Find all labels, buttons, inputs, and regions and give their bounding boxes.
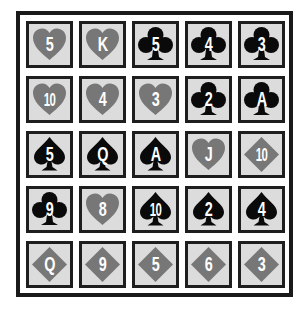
- card-spades-a[interactable]: A: [132, 131, 179, 178]
- card-rank: 9: [88, 244, 118, 285]
- card-clubs-2[interactable]: 2: [185, 76, 232, 123]
- card-rank: 10: [249, 134, 274, 175]
- card-diamonds-q[interactable]: Q: [26, 241, 73, 288]
- card-rank: 4: [247, 189, 277, 230]
- card-hearts-8[interactable]: 8: [79, 186, 126, 233]
- card-rank: 3: [247, 24, 277, 65]
- card-hearts-5[interactable]: 5: [26, 21, 73, 68]
- card-diamonds-5[interactable]: 5: [132, 241, 179, 288]
- card-rank: 5: [35, 134, 65, 175]
- card-clubs-5[interactable]: 5: [132, 21, 179, 68]
- card-rank: J: [194, 134, 224, 175]
- card-rank: 3: [141, 79, 171, 120]
- card-spades-5[interactable]: 5: [26, 131, 73, 178]
- card-rank: 2: [194, 79, 224, 120]
- card-clubs-a[interactable]: A: [238, 76, 285, 123]
- card-rank: 9: [35, 189, 65, 230]
- card-spades-4[interactable]: 4: [238, 186, 285, 233]
- card-hearts-10[interactable]: 10: [26, 76, 73, 123]
- card-rank: 10: [37, 79, 62, 120]
- card-rank: A: [247, 79, 277, 120]
- card-rank: 5: [141, 24, 171, 65]
- card-rank: 10: [143, 189, 168, 230]
- card-spades-q[interactable]: Q: [79, 131, 126, 178]
- card-rank: 8: [88, 189, 118, 230]
- card-rank: K: [88, 24, 118, 65]
- game-board: 5K54310432A5QAJ10981024Q9563: [16, 11, 293, 297]
- card-rank: 2: [194, 189, 224, 230]
- card-hearts-j[interactable]: J: [185, 131, 232, 178]
- card-clubs-3[interactable]: 3: [238, 21, 285, 68]
- card-spades-2[interactable]: 2: [185, 186, 232, 233]
- card-diamonds-9[interactable]: 9: [79, 241, 126, 288]
- card-rank: A: [141, 134, 171, 175]
- card-rank: Q: [35, 244, 65, 285]
- card-hearts-3[interactable]: 3: [132, 76, 179, 123]
- card-rank: 4: [194, 24, 224, 65]
- card-grid: 5K54310432A5QAJ10981024Q9563: [26, 21, 285, 288]
- card-diamonds-3[interactable]: 3: [238, 241, 285, 288]
- card-rank: 5: [141, 244, 171, 285]
- card-rank: 6: [194, 244, 224, 285]
- card-clubs-9[interactable]: 9: [26, 186, 73, 233]
- card-hearts-4[interactable]: 4: [79, 76, 126, 123]
- card-diamonds-6[interactable]: 6: [185, 241, 232, 288]
- card-rank: Q: [88, 134, 118, 175]
- card-rank: 4: [88, 79, 118, 120]
- card-spades-10[interactable]: 10: [132, 186, 179, 233]
- card-diamonds-10[interactable]: 10: [238, 131, 285, 178]
- card-rank: 3: [247, 244, 277, 285]
- card-clubs-4[interactable]: 4: [185, 21, 232, 68]
- card-hearts-k[interactable]: K: [79, 21, 126, 68]
- card-rank: 5: [35, 24, 65, 65]
